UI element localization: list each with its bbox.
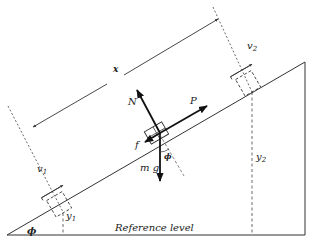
label-phi-base: ϕ [27,225,37,236]
label-reference-level: Reference level [114,222,194,233]
label-mg: m g [140,162,159,173]
label-f: f [134,139,141,150]
label-phi-block: ϕ [164,151,172,161]
incline-diagram: x v1 v2 y1 y2 N P f m g ϕ ϕ Reference le… [0,0,314,244]
labels: x v1 v2 y1 y2 N P f m g ϕ ϕ Reference le… [27,40,267,236]
label-N: N [127,96,138,107]
label-y1: y1 [65,210,76,223]
label-x: x [112,64,119,74]
label-P: P [189,95,197,106]
incline-plane [7,62,305,235]
diagram-canvas: x v1 v2 y1 y2 N P f m g ϕ ϕ Reference le… [0,0,314,244]
extension-lines [8,7,252,212]
label-y2: y2 [255,151,267,164]
label-v2: v2 [247,40,258,53]
label-v1: v1 [37,163,47,176]
normal-force-arrow [137,90,160,133]
dimension-x [33,19,218,127]
applied-force-arrow [160,106,207,133]
